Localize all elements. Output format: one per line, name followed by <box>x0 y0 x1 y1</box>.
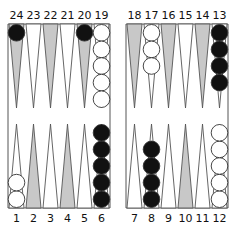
white-checker-point-19[interactable] <box>93 91 110 108</box>
black-checker-point-20[interactable] <box>76 25 93 42</box>
point-15[interactable] <box>178 24 193 108</box>
white-checker-point-1[interactable] <box>8 191 25 208</box>
black-checker-point-8[interactable] <box>143 191 160 208</box>
point-label: 14 <box>196 9 210 22</box>
black-checker-point-6[interactable] <box>93 125 110 142</box>
black-checker-point-8[interactable] <box>143 174 160 191</box>
point-label: 10 <box>179 212 193 225</box>
white-checker-point-17[interactable] <box>143 41 160 58</box>
point-label: 16 <box>162 9 176 22</box>
point-label: 24 <box>10 9 24 22</box>
white-checker-point-12[interactable] <box>211 158 228 175</box>
point-23[interactable] <box>26 24 41 108</box>
point-label: 12 <box>213 212 227 225</box>
white-checker-point-12[interactable] <box>211 191 228 208</box>
black-checker-point-6[interactable] <box>93 141 110 158</box>
white-checker-point-19[interactable] <box>93 74 110 91</box>
point-21[interactable] <box>60 24 75 108</box>
white-checker-point-17[interactable] <box>143 25 160 42</box>
board-frame <box>8 24 228 208</box>
white-checker-point-19[interactable] <box>93 25 110 42</box>
black-checker-point-6[interactable] <box>93 174 110 191</box>
point-9[interactable] <box>161 124 176 208</box>
point-label: 18 <box>128 9 142 22</box>
point-16[interactable] <box>161 24 176 108</box>
point-label: 2 <box>30 212 37 225</box>
black-checker-point-13[interactable] <box>211 25 228 42</box>
point-11[interactable] <box>195 124 210 208</box>
point-label: 23 <box>27 9 41 22</box>
point-22[interactable] <box>43 24 58 108</box>
backgammon-board: 242322212019181716151413 123456789101112 <box>0 0 236 231</box>
black-checker-point-6[interactable] <box>93 191 110 208</box>
black-checker-point-13[interactable] <box>211 74 228 91</box>
point-18[interactable] <box>127 24 142 108</box>
point-5[interactable] <box>77 124 92 208</box>
point-10[interactable] <box>178 124 193 208</box>
point-label: 6 <box>98 212 105 225</box>
point-4[interactable] <box>60 124 75 208</box>
point-label: 13 <box>213 9 227 22</box>
black-checker-point-8[interactable] <box>143 141 160 158</box>
white-checker-point-12[interactable] <box>211 125 228 142</box>
black-checker-point-6[interactable] <box>93 158 110 175</box>
point-14[interactable] <box>195 24 210 108</box>
points-layer <box>9 24 227 208</box>
white-checker-point-19[interactable] <box>93 58 110 75</box>
point-label: 9 <box>165 212 172 225</box>
point-label: 7 <box>131 212 138 225</box>
white-checker-point-17[interactable] <box>143 58 160 75</box>
white-checker-point-1[interactable] <box>8 174 25 191</box>
white-checker-point-12[interactable] <box>211 141 228 158</box>
point-label: 21 <box>61 9 75 22</box>
point-label: 1 <box>13 212 20 225</box>
point-label: 22 <box>44 9 58 22</box>
checkers-layer <box>8 25 228 208</box>
point-label: 20 <box>78 9 92 22</box>
black-checker-point-13[interactable] <box>211 58 228 75</box>
black-checker-point-13[interactable] <box>211 41 228 58</box>
point-7[interactable] <box>127 124 142 208</box>
point-label: 5 <box>81 212 88 225</box>
point-2[interactable] <box>26 124 41 208</box>
top-point-labels: 242322212019181716151413 <box>10 9 227 22</box>
point-label: 3 <box>47 212 54 225</box>
point-label: 11 <box>196 212 210 225</box>
point-label: 8 <box>148 212 155 225</box>
point-3[interactable] <box>43 124 58 208</box>
point-label: 19 <box>95 9 109 22</box>
point-label: 17 <box>145 9 159 22</box>
bottom-point-labels: 123456789101112 <box>13 212 227 225</box>
black-checker-point-8[interactable] <box>143 158 160 175</box>
white-checker-point-12[interactable] <box>211 174 228 191</box>
black-checker-point-24[interactable] <box>8 25 25 42</box>
point-label: 15 <box>179 9 193 22</box>
point-label: 4 <box>64 212 71 225</box>
white-checker-point-19[interactable] <box>93 41 110 58</box>
